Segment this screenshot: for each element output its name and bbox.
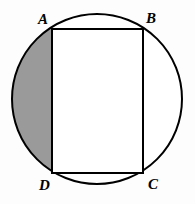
vertex-label-b: B: [146, 11, 156, 26]
geometry-diagram-svg: [0, 0, 195, 204]
vertex-label-a: A: [38, 12, 48, 27]
geometry-figure: A B C D: [0, 0, 195, 204]
inscribed-rectangle-fill: [52, 29, 143, 173]
vertex-label-d: D: [39, 178, 50, 193]
vertex-label-c: C: [148, 177, 158, 192]
